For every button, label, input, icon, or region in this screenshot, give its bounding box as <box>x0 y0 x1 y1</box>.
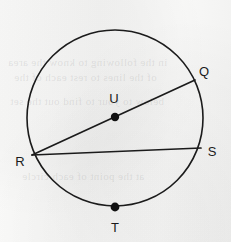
chord-r-s <box>32 148 201 155</box>
point-label-q: Q <box>199 65 209 78</box>
point-label-r: R <box>15 155 24 168</box>
point-label-t: T <box>111 221 119 234</box>
point-dot-t <box>111 203 120 212</box>
geometry-figure: in the following to know the area of the… <box>0 0 231 242</box>
center-point-dot-u <box>111 113 119 121</box>
point-label-u: U <box>109 92 118 105</box>
point-label-s: S <box>208 145 217 158</box>
circle-diagram <box>0 0 231 242</box>
